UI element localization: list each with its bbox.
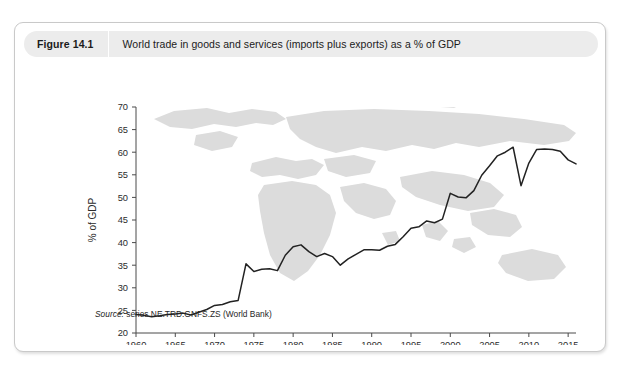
y-tick-label: 35 <box>118 261 128 271</box>
y-tick-label: 70 <box>118 102 128 112</box>
figure-header: Figure 14.1 World trade in goods and ser… <box>24 31 598 57</box>
world-map-watermark <box>154 97 576 281</box>
y-tick-label: 55 <box>118 170 128 180</box>
x-tick-label: 1960 <box>126 340 147 345</box>
source-text: series NE.TRD.GNFS.ZS (World Bank) <box>124 309 272 319</box>
y-tick-label: 20 <box>118 328 128 338</box>
y-axis-ticks <box>132 107 136 333</box>
chart-plot-area: 2025303540455055606570 19601965197019751… <box>24 67 598 345</box>
y-tick-label: 65 <box>118 125 128 135</box>
x-tick-label: 1965 <box>165 340 186 345</box>
y-tick-label: 30 <box>118 283 128 293</box>
x-tick-label: 1970 <box>204 340 225 345</box>
x-axis-tick-labels: 1960196519701975198019851990199520002005… <box>126 340 579 345</box>
y-axis-title: % of GDP <box>87 197 98 242</box>
x-tick-label: 1975 <box>244 340 265 345</box>
source-label: Source: <box>95 309 124 319</box>
x-tick-label: 2000 <box>440 340 461 345</box>
x-axis-ticks <box>136 333 568 337</box>
header-divider <box>108 31 109 57</box>
figure-title: World trade in goods and services (impor… <box>123 38 461 50</box>
figure-number: Figure 14.1 <box>37 38 94 50</box>
source-note: Source: series NE.TRD.GNFS.ZS (World Ban… <box>95 309 272 319</box>
line-chart: 2025303540455055606570 19601965197019751… <box>24 67 598 345</box>
y-axis-tick-labels: 2025303540455055606570 <box>118 102 128 338</box>
figure-card: Figure 14.1 World trade in goods and ser… <box>14 22 606 352</box>
y-tick-label: 40 <box>118 238 128 248</box>
x-tick-label: 2015 <box>558 340 579 345</box>
y-tick-label: 50 <box>118 193 128 203</box>
x-tick-label: 1980 <box>283 340 304 345</box>
y-tick-label: 45 <box>118 215 128 225</box>
x-tick-label: 1990 <box>361 340 382 345</box>
x-tick-label: 1995 <box>401 340 422 345</box>
x-tick-label: 2005 <box>479 340 500 345</box>
x-tick-label: 1985 <box>322 340 343 345</box>
y-tick-label: 60 <box>118 148 128 158</box>
x-tick-label: 2010 <box>519 340 540 345</box>
